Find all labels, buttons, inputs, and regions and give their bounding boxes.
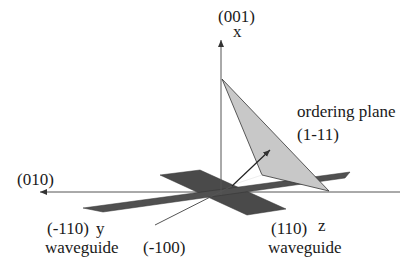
label-z: z	[318, 216, 326, 235]
label-waveguide-z: waveguide	[268, 238, 342, 257]
label-neg100: (-100)	[143, 238, 185, 257]
label-1-11: (1-11)	[297, 125, 339, 144]
label-010: (010)	[17, 170, 54, 189]
label-neg110: (-110)	[47, 219, 89, 238]
label-110: (110)	[271, 219, 307, 238]
label-waveguide-y: waveguide	[45, 238, 119, 257]
label-y: y	[96, 219, 105, 238]
plane-edge-line	[232, 175, 262, 185]
crystal-orientation-diagram: (001) x ordering plane (1-11) (010) (-11…	[0, 0, 418, 271]
label-x: x	[233, 22, 242, 41]
label-ordering-plane: ordering plane	[297, 102, 396, 121]
